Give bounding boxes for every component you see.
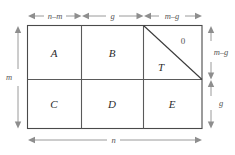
partitioned-rectangle-diagram: A B T C D E 0 n–m g m–g m–g [0,0,235,155]
dimension-top-middle-label: g [110,11,114,21]
dimension-bottom-total-arrow-start [28,137,35,143]
dimension-left-total: m [6,26,21,129]
dimension-left-total-arrow-top [15,26,21,33]
dimension-right-upper-arrow-top [208,26,214,33]
dimension-right-upper-arrow-bottom [208,73,214,80]
region-label-E: E [168,98,176,110]
triangle-hypotenuse [144,26,203,80]
dimension-right-upper: m–g [208,26,229,80]
dimension-top-right-label: m–g [165,11,180,21]
outer-rectangle [28,26,203,129]
dimension-top-middle: g [82,11,144,21]
region-label-C: C [50,98,58,110]
dimension-bottom-total-label: n [111,135,115,145]
dimension-top-middle-arrow-start [82,13,89,19]
dimension-top-right-arrow-start [144,13,151,19]
dimension-top-right-arrow-end [195,13,202,19]
zero-annotation: 0 [181,36,186,46]
dimension-top-left-arrow-start [28,13,35,19]
dimension-left-total-label: m [6,72,12,82]
dimension-top-left-arrow-end [75,13,82,19]
dimension-top-left-label: n–m [48,11,63,21]
dimension-right-upper-label: m–g [214,47,229,57]
dimension-top-middle-arrow-end [137,13,144,19]
dimension-bottom-total-arrow-end [195,137,202,143]
dimension-right-lower: g [208,80,223,129]
dimension-left-total-arrow-bottom [15,122,21,129]
dimension-right-lower-arrow-bottom [208,122,214,129]
dimension-bottom-total: n [28,135,202,145]
dimension-right-lower-arrow-top [208,80,214,87]
region-label-T: T [158,61,165,73]
dimension-right-lower-label: g [219,98,223,108]
region-label-D: D [107,98,116,110]
dimension-top-left: n–m [28,11,82,21]
region-label-B: B [109,47,116,59]
dimension-top-right: m–g [144,11,202,21]
region-label-A: A [50,47,58,59]
